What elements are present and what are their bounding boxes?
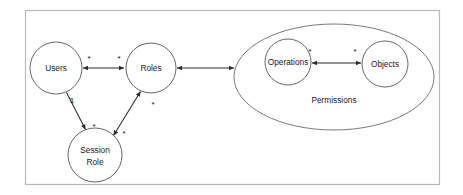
- node-session-role-label-line2: Role: [86, 157, 103, 167]
- mult-users-session-role-target: *: [92, 122, 95, 131]
- mult-users-roles-target: *: [117, 54, 120, 63]
- group-permissions-label: Permissions: [311, 95, 356, 105]
- node-users-label: Users: [45, 63, 67, 73]
- mult-session-role-roles-target: *: [151, 100, 154, 109]
- mult-operations-objects-source: *: [308, 47, 311, 56]
- mult-operations-objects-target: *: [353, 47, 356, 56]
- node-operations-label: Operations: [268, 57, 309, 67]
- rbac-diagram-canvas: Permissions Users Roles Session Role Ope…: [0, 0, 463, 195]
- mult-session-role-roles-source: *: [122, 129, 125, 138]
- node-objects-label: Objects: [371, 59, 399, 69]
- node-session-role-label-line1: Session: [80, 145, 110, 155]
- rbac-diagram: Permissions Users Roles Session Role Ope…: [0, 0, 463, 195]
- mult-users-session-role-source: 1: [70, 96, 75, 105]
- node-roles-label: Roles: [140, 63, 161, 73]
- mult-users-roles-source: *: [87, 54, 90, 63]
